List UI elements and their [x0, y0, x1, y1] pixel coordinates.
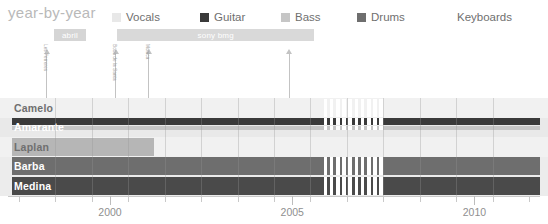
bar-gap-band-amarante: [321, 126, 385, 130]
axis-tick-6: [201, 196, 202, 202]
period-bar-abril[interactable]: abril: [54, 29, 87, 41]
legend-item-bass[interactable]: Bass: [281, 7, 321, 21]
axis-tick-15: [474, 196, 475, 205]
year-by-year-chart: year-by-year VocalsGuitarBassDrumsKeyboa…: [0, 0, 548, 224]
axis-tick-0: [19, 196, 20, 202]
bar-segment-barba-1[interactable]: [385, 157, 540, 175]
row-label-barba: Barba: [14, 160, 45, 172]
event-markers: Les FerreresBoca de la SantaMonica: [0, 44, 548, 98]
axis-tick-11: [347, 196, 348, 202]
axis-tick-5: [165, 196, 166, 202]
axis-tick-3: [110, 196, 111, 205]
legend-item-keyboards[interactable]: Keyboards: [443, 7, 512, 21]
axis-tick-2: [92, 196, 93, 202]
legend-label: Bass: [295, 11, 321, 23]
bar-gap-band-camelo: [321, 99, 385, 117]
axis-tick-7: [238, 196, 239, 202]
chart-row-barba[interactable]: Barba: [0, 157, 548, 177]
axis-label-2005: 2005: [281, 206, 304, 218]
bar-segment-amarante-1[interactable]: [385, 126, 540, 130]
bar-segment-medina-1[interactable]: [385, 177, 540, 195]
legend-swatch-keyboards: [443, 13, 452, 22]
marker-line: [289, 52, 290, 98]
legend-swatch-drums: [357, 13, 366, 22]
axis-tick-10: [310, 196, 311, 202]
chart-row-laplan[interactable]: Laplan: [0, 137, 548, 157]
bar-segment-amarante-1[interactable]: [385, 118, 540, 125]
axis-tick-13: [420, 196, 421, 202]
legend-item-vocals[interactable]: Vocals: [112, 7, 160, 21]
axis-tick-17: [529, 196, 530, 202]
bar-segment-medina-0[interactable]: [12, 177, 322, 195]
axis-label-2000: 2000: [98, 206, 121, 218]
legend-swatch-guitar: [200, 13, 209, 22]
event-marker-1[interactable]: Boca de la Santa: [115, 44, 116, 98]
bar-gap-band-barba: [321, 157, 385, 175]
row-label-camelo: Camelo: [14, 102, 53, 114]
legend-label: Keyboards: [457, 11, 512, 23]
axis-tick-1: [55, 196, 56, 202]
event-marker-label: Boca de la Santa: [112, 44, 117, 81]
event-marker-label: Monica: [145, 44, 150, 59]
legend-swatch-bass: [281, 13, 290, 22]
row-label-medina: Medina: [14, 180, 51, 192]
chart-row-amarante[interactable]: Amarante: [0, 118, 548, 138]
period-bar-sony-bmg[interactable]: sony bmg: [117, 29, 314, 41]
event-marker-2[interactable]: Monica: [148, 44, 149, 98]
legend-label: Vocals: [126, 11, 160, 23]
period-label: abril: [62, 31, 78, 40]
bar-segment-camelo-0[interactable]: [12, 99, 322, 117]
chart-row-medina[interactable]: Medina: [0, 176, 548, 196]
axis-tick-14: [456, 196, 457, 202]
bar-gap-band-amarante: [321, 118, 385, 125]
axis-label-2010: 2010: [463, 206, 486, 218]
event-marker-3[interactable]: [289, 44, 290, 98]
legend-label: Drums: [371, 11, 405, 23]
axis-tick-4: [128, 196, 129, 202]
bar-segment-barba-0[interactable]: [12, 157, 322, 175]
event-marker-label: Les Ferreres: [43, 44, 48, 71]
axis-tick-16: [493, 196, 494, 202]
event-marker-0[interactable]: Les Ferreres: [46, 44, 47, 98]
period-annotations: abrilsony bmg: [0, 28, 548, 44]
legend-swatch-vocals: [112, 13, 121, 22]
x-axis: 200020052010: [0, 196, 548, 224]
axis-tick-8: [274, 196, 275, 202]
plot-area: CameloAmaranteLaplanBarbaMedina: [0, 98, 548, 196]
period-label: sony bmg: [198, 31, 234, 40]
bar-gap-band-medina: [321, 177, 385, 195]
axis-tick-12: [383, 196, 384, 202]
chart-row-camelo[interactable]: Camelo: [0, 98, 548, 118]
chart-header: year-by-year VocalsGuitarBassDrumsKeyboa…: [0, 0, 548, 28]
bar-segment-camelo-1[interactable]: [385, 99, 540, 117]
legend-item-drums[interactable]: Drums: [357, 7, 405, 21]
row-label-laplan: Laplan: [14, 141, 49, 153]
legend-label: Guitar: [214, 11, 245, 23]
axis-tick-9: [292, 196, 293, 205]
row-label-amarante: Amarante: [14, 121, 64, 133]
legend-item-guitar[interactable]: Guitar: [200, 7, 245, 21]
page-title: year-by-year: [8, 4, 96, 21]
